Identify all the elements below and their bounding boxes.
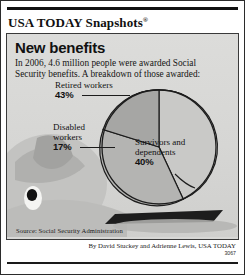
callout-survivors: Survivors and dependents 40% — [135, 137, 185, 167]
panel-text-block: New benefits In 2006, 4.6 million people… — [7, 34, 238, 79]
callout-retired: Retired workers 43% — [55, 80, 113, 100]
header-rule — [7, 7, 238, 10]
callout-disabled-name-line1: Disabled — [53, 122, 85, 132]
callout-disabled-value: 17% — [53, 142, 85, 152]
byline: By David Stuckey and Adrienne Lewis, USA… — [6, 242, 239, 250]
brand-name: USA TODAY Snapshots — [8, 15, 143, 30]
footer-rule — [7, 262, 238, 264]
callout-survivors-value: 40% — [135, 157, 185, 167]
callout-survivors-name-line1: Survivors and — [135, 137, 185, 147]
page-title: New benefits — [15, 39, 230, 56]
leader-line-disabled — [80, 147, 115, 148]
callout-retired-value: 43% — [55, 90, 113, 100]
registered-mark: ® — [143, 16, 148, 24]
subtitle-text: In 2006, 4.6 million people were awarded… — [15, 58, 220, 79]
usa-today-snapshot: USA TODAY Snapshots® — [0, 0, 245, 275]
infographic-panel: New benefits In 2006, 4.6 million people… — [6, 33, 239, 240]
graphic-code: 3067 — [6, 250, 239, 257]
brand-title: USA TODAY Snapshots® — [6, 13, 239, 33]
source-note: Source: Social Security Administration — [16, 227, 123, 234]
footer: By David Stuckey and Adrienne Lewis, USA… — [6, 240, 239, 266]
callout-disabled: Disabled workers 17% — [53, 122, 85, 152]
